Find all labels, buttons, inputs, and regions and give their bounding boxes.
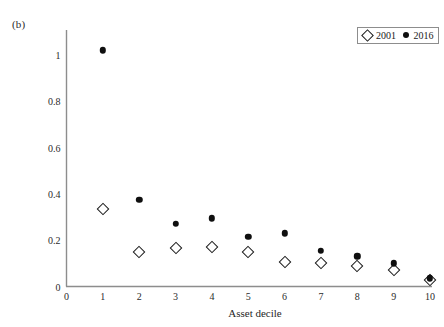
plot-area: 00.20.40.60.81 012345678910 [0,0,444,327]
x-tick-label: 0 [64,291,69,302]
y-tick-label: 0.4 [48,188,61,199]
x-tick-label: 10 [425,291,435,302]
y-tick-label: 0 [56,281,61,292]
x-tick-label: 8 [355,291,360,302]
y-tick-label: 0.2 [48,235,61,246]
x-tick-label: 9 [391,291,396,302]
x-tick-label: 3 [173,291,178,302]
x-tick-label: 6 [282,291,287,302]
y-tick-label: 0.6 [48,142,61,153]
y-tick-label: 1 [56,50,61,61]
x-tick-label: 1 [100,291,105,302]
axis-lines [0,0,444,327]
x-tick-label: 4 [209,291,214,302]
y-tick-label: 0.8 [48,96,61,107]
figure-panel-b: (b) 2001 2016 00.20.40.60.81 01234567891… [0,0,444,327]
x-axis-title: Asset decile [228,307,281,319]
x-tick-label: 5 [246,291,251,302]
x-tick-label: 7 [318,291,323,302]
x-tick-label: 2 [137,291,142,302]
